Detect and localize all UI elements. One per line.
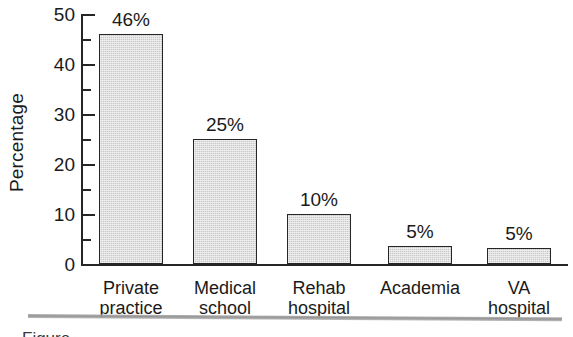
category-label: VA hospital [465, 278, 573, 318]
figure-caption-text: Figure [22, 330, 70, 337]
y-tick-label: 0 [41, 255, 75, 274]
bar-value-label: 46% [86, 10, 176, 29]
category-label: Academia [366, 278, 474, 298]
bar-value-label: 25% [180, 115, 270, 134]
y-axis-title: Percentage [0, 10, 34, 275]
bar [388, 246, 452, 264]
plot-area: 50403020100 46%25%10%5%5% [81, 14, 568, 266]
y-tick-minor [83, 239, 91, 241]
y-tick-minor [83, 189, 91, 191]
y-tick-major [83, 214, 95, 216]
bar-value-label: 10% [274, 190, 364, 209]
y-tick-label: 20 [41, 155, 75, 174]
bar [193, 139, 257, 264]
bar-value-label: 5% [474, 224, 564, 243]
y-axis-tick-labels: 50403020100 [37, 14, 75, 266]
y-tick-label: 50 [41, 5, 75, 24]
y-tick-label: 40 [41, 55, 75, 74]
y-tick-major [83, 114, 95, 116]
y-tick-label: 30 [41, 105, 75, 124]
y-tick-major [83, 164, 95, 166]
bar [487, 248, 551, 264]
x-axis-line [81, 264, 568, 266]
bar-value-label: 5% [375, 222, 465, 241]
bar [99, 34, 163, 264]
category-label: Rehab hospital [265, 278, 373, 318]
y-tick-major [83, 264, 95, 266]
y-tick-label: 10 [41, 205, 75, 224]
y-tick-minor [83, 39, 91, 41]
bar-chart-figure: Percentage 50403020100 46%25%10%5%5% Pri… [0, 0, 573, 337]
y-tick-minor [83, 89, 91, 91]
category-label: Medical school [171, 278, 279, 318]
y-tick-major [83, 64, 95, 66]
bar [287, 214, 351, 264]
category-label: Private practice [77, 278, 185, 318]
y-tick-minor [83, 139, 91, 141]
